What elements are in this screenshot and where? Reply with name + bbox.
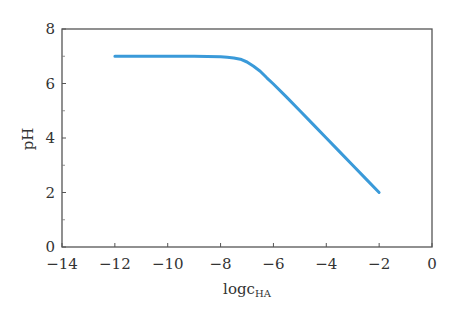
x-tick-label: −6 [262,255,284,273]
y-tick-label: 8 [45,20,55,38]
x-tick-label: −4 [315,255,337,273]
y-tick-label: 0 [45,238,55,256]
chart: −14−12−10−8−6−4−20 02468 logcHA pH [0,0,458,312]
x-axis-label: logcHA [223,280,272,299]
y-tick-label: 2 [45,184,55,202]
y-axis-ticks: 02468 [45,20,66,256]
x-tick-label: −12 [99,255,131,273]
x-tick-label: 0 [427,255,437,273]
x-tick-label: −10 [152,255,184,273]
x-tick-label: −8 [210,255,232,273]
data-line [115,56,379,192]
y-tick-label: 6 [45,75,55,93]
x-tick-label: −2 [368,255,390,273]
y-tick-label: 4 [45,129,55,147]
x-tick-label: −14 [46,255,78,273]
y-axis-label: pH [19,128,37,151]
